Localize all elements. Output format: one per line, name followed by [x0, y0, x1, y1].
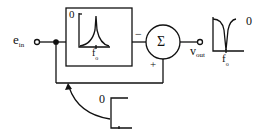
notch-axes	[213, 17, 244, 51]
summer-symbol: Σ	[157, 35, 165, 49]
notch-y-label: 0	[246, 15, 252, 27]
summer-plus-sign: +	[150, 59, 156, 70]
arrowhead-icon	[65, 83, 72, 90]
gain-graph-y-label: 0	[99, 93, 105, 105]
gain-step-graph	[111, 98, 132, 128]
input-label: ein	[13, 33, 24, 46]
input-terminal	[35, 40, 40, 45]
output-label: vout	[190, 45, 205, 57]
notch-x-label: fo	[222, 53, 229, 64]
bandpass-y-label: 0	[69, 9, 75, 20]
output-label-subscript: out	[196, 51, 205, 59]
input-label-subscript: in	[19, 41, 24, 49]
summer-minus-sign: −	[135, 28, 142, 40]
output-terminal	[198, 40, 203, 45]
notch-filter-diagram	[0, 0, 266, 138]
notch-curve	[213, 19, 236, 50]
bandpass-curve	[80, 16, 109, 46]
bandpass-x-label: fo	[92, 48, 98, 58]
